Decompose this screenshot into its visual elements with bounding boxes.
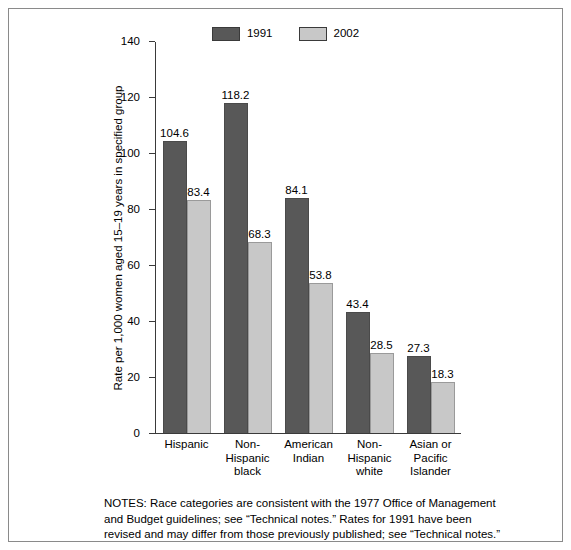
- legend-label-1991: 1991: [247, 28, 273, 40]
- figure-frame: 1991 2002 Rate per 1,000 women aged 15–1…: [8, 8, 563, 542]
- category-label: Non-Hispanicblack: [217, 438, 278, 479]
- category-label-line: Indian: [278, 452, 339, 466]
- category-label-line: black: [217, 465, 278, 479]
- bar-value-label: 18.3: [431, 368, 453, 380]
- bar-slot: 43.4: [346, 42, 370, 433]
- bar-value-label: 84.1: [285, 184, 307, 196]
- chart-notes: NOTES: Race categories are consistent wi…: [104, 496, 504, 543]
- bar-2002[interactable]: [370, 353, 394, 433]
- y-tick-140: 140: [149, 41, 155, 42]
- bar-value-label: 104.6: [160, 127, 189, 139]
- y-tick-label-140: 140: [121, 35, 140, 47]
- y-tick-label-100: 100: [121, 147, 140, 159]
- legend-swatch-1991: [212, 27, 240, 41]
- y-tick-label-20: 20: [127, 371, 140, 383]
- y-tick-label-0: 0: [134, 427, 140, 439]
- bar-slot: 104.6: [163, 42, 187, 433]
- x-axis-category-labels: HispanicNon-HispanicblackAmericanIndianN…: [156, 438, 461, 479]
- category-label-line: Hispanic: [217, 452, 278, 466]
- bar-2002[interactable]: [248, 242, 272, 433]
- bar-value-label: 68.3: [248, 228, 270, 240]
- category-label: AmericanIndian: [278, 438, 339, 479]
- y-tick-40: 40: [149, 321, 155, 322]
- y-axis-title-text: Rate per 1,000 women aged 15–19 years in…: [112, 86, 124, 391]
- bar-value-label: 118.2: [222, 89, 250, 101]
- category-label-line: Islander: [400, 465, 461, 479]
- bar-value-label: 83.4: [187, 186, 209, 198]
- y-tick-label-120: 120: [121, 91, 140, 103]
- bar-slot: 28.5: [370, 42, 394, 433]
- bar-2002[interactable]: [187, 200, 211, 433]
- bar-value-label: 28.5: [370, 339, 392, 351]
- bar-slot: 84.1: [285, 42, 309, 433]
- bar-group: 27.318.3: [400, 42, 461, 433]
- bar-value-label: 27.3: [407, 342, 429, 354]
- category-label: Asian orPacificIslander: [400, 438, 461, 479]
- bar-slot: 68.3: [248, 42, 272, 433]
- category-label-line: American: [278, 438, 339, 452]
- bar-slot: 118.2: [224, 42, 248, 433]
- category-label-line: Asian or: [400, 438, 461, 452]
- legend-entry-2002: 2002: [299, 27, 360, 41]
- category-label-line: Non-: [339, 438, 400, 452]
- y-tick-120: 120: [149, 97, 155, 98]
- category-label-line: Pacific: [400, 452, 461, 466]
- bar-group: 118.268.3: [217, 42, 278, 433]
- bar-1991[interactable]: [346, 312, 370, 433]
- bar-slot: 53.8: [309, 42, 333, 433]
- bar-value-label: 43.4: [346, 298, 368, 310]
- bar-group: 43.428.5: [339, 42, 400, 433]
- category-label-line: Hispanic: [156, 438, 217, 452]
- y-tick-label-60: 60: [127, 259, 140, 271]
- legend-label-2002: 2002: [334, 28, 360, 40]
- bar-group: 104.683.4: [156, 42, 217, 433]
- y-tick-60: 60: [149, 265, 155, 266]
- legend-entry-1991: 1991: [212, 27, 273, 41]
- bar-1991[interactable]: [285, 198, 309, 433]
- y-tick-0: 0: [149, 433, 155, 434]
- bar-groups: 104.683.4118.268.384.153.843.428.527.318…: [156, 42, 461, 433]
- category-label-line: Non-: [217, 438, 278, 452]
- bar-2002[interactable]: [309, 283, 333, 433]
- category-label: Hispanic: [156, 438, 217, 479]
- bar-group: 84.153.8: [278, 42, 339, 433]
- y-tick-label-80: 80: [127, 203, 140, 215]
- bar-1991[interactable]: [407, 356, 431, 432]
- bar-slot: 27.3: [407, 42, 431, 433]
- category-label: Non-Hispanicwhite: [339, 438, 400, 479]
- bar-slot: 18.3: [431, 42, 455, 433]
- bar-1991[interactable]: [163, 141, 187, 433]
- bar-2002[interactable]: [431, 382, 455, 433]
- bar-slot: 83.4: [187, 42, 211, 433]
- legend-swatch-2002: [299, 27, 327, 41]
- plot-area: 020406080100120140 104.683.4118.268.384.…: [155, 42, 461, 434]
- y-tick-100: 100: [149, 153, 155, 154]
- y-tick-80: 80: [149, 209, 155, 210]
- bar-value-label: 53.8: [309, 269, 331, 281]
- y-tick-label-40: 40: [127, 315, 140, 327]
- bar-1991[interactable]: [224, 103, 248, 433]
- y-tick-20: 20: [149, 377, 155, 378]
- x-axis-line: [155, 433, 461, 434]
- category-label-line: white: [339, 465, 400, 479]
- chart-legend: 1991 2002: [9, 27, 562, 41]
- category-label-line: Hispanic: [339, 452, 400, 466]
